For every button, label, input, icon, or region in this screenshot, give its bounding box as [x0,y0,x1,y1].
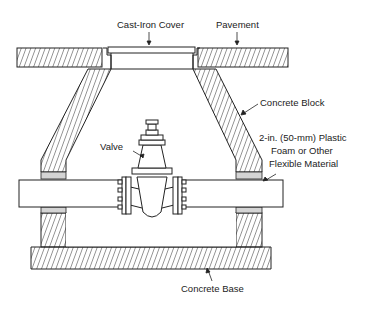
label-foam-line3: Flexible Material [269,158,338,170]
label-cast-iron-cover: Cast-Iron Cover [117,19,184,31]
concrete-base [31,213,271,269]
label-foam-line1: 2-in. (50-mm) Plastic [259,132,347,144]
label-concrete-base: Concrete Base [181,283,244,295]
label-pavement: Pavement [216,19,259,31]
valve-vault-diagram: Cast-Iron Cover Pavement Concrete Block … [0,0,365,311]
label-foam-line2: Foam or Other [271,145,333,157]
label-concrete-block: Concrete Block [260,97,324,109]
valve [118,120,186,217]
cast-iron-cover [103,47,200,69]
label-valve: Valve [100,141,123,153]
